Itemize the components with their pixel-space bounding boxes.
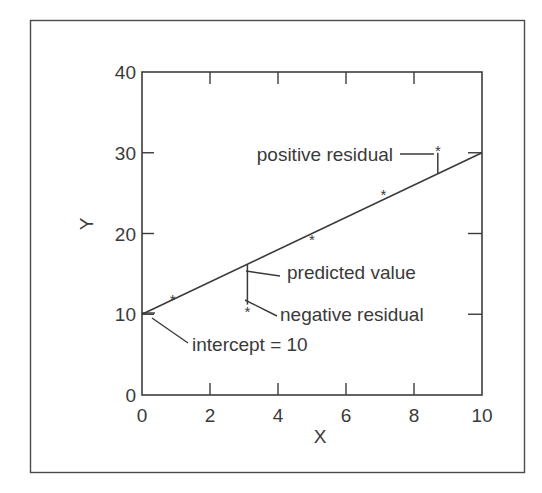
y-axis-label: Y (76, 217, 97, 230)
data-point-star: * (244, 303, 250, 320)
data-points: ***** (170, 142, 441, 321)
y-tick-label: 40 (115, 62, 136, 83)
x-tick-label: 0 (137, 405, 148, 426)
regression-residual-chart: 0246810010203040 X Y ***** positive resi… (0, 0, 542, 493)
x-tick-label: 2 (205, 405, 216, 426)
y-tick-label: 20 (115, 224, 136, 245)
y-tick-label: 0 (125, 385, 136, 406)
intercept-leader (152, 318, 188, 343)
x-tick-label: 8 (409, 405, 420, 426)
x-tick-label: 4 (273, 405, 284, 426)
x-axis-label: X (314, 426, 327, 447)
data-point-star: * (435, 142, 441, 159)
y-tick-label: 10 (115, 304, 136, 325)
data-point-star: * (170, 291, 176, 308)
annotation-predicted-value: predicted value (287, 262, 416, 283)
axis-tick-labels: 0246810010203040 (115, 62, 493, 426)
predicted-value-leader (246, 271, 280, 276)
data-point-star: * (380, 186, 386, 203)
annotation-intercept: intercept = 10 (192, 334, 308, 355)
annotation-positive-residual: positive residual (257, 144, 393, 165)
x-tick-label: 6 (341, 405, 352, 426)
y-tick-label: 30 (115, 143, 136, 164)
x-tick-label: 10 (471, 405, 492, 426)
data-point-star: * (309, 231, 315, 248)
annotation-negative-residual: negative residual (280, 304, 424, 325)
